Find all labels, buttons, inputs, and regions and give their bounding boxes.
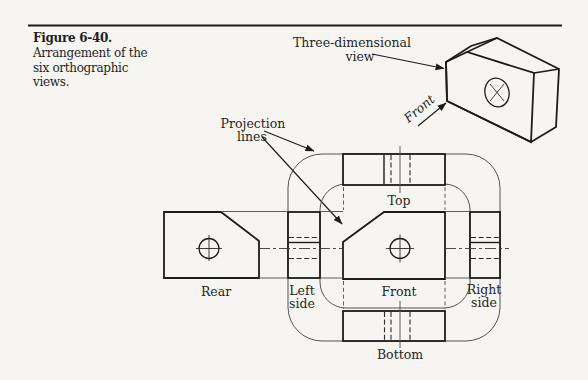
rear-view-label: Rear — [201, 284, 231, 299]
top-view-label: Top — [388, 193, 411, 208]
caption-line-2: six orthographic — [33, 61, 129, 75]
bottom-view — [343, 311, 445, 341]
caption-line-3: views. — [32, 75, 69, 89]
projection-label-line2: lines — [237, 129, 267, 144]
figure-6-40-diagram: Figure 6-40. Arrangement of the six orth… — [0, 0, 588, 380]
figure-caption: Figure 6-40. Arrangement of the six orth… — [32, 31, 148, 89]
orthographic-views: Top Front Rear Left side Right side Bott… — [164, 146, 509, 362]
caption-figure-number: Figure 6-40. — [33, 31, 112, 45]
front-pictorial-label: Front — [400, 91, 438, 126]
front-view-label: Front — [381, 284, 416, 299]
three-dimensional-arrow — [372, 54, 444, 69]
three-dimensional-label-line2: view — [344, 49, 374, 64]
top-view — [343, 154, 445, 185]
right-side-label-line2: side — [471, 295, 497, 310]
caption-line-1: Arrangement of the — [32, 46, 148, 60]
pictorial-3d-block — [446, 38, 559, 142]
three-dimensional-label-line1: Three-dimensional — [293, 35, 411, 50]
left-side-label-line2: side — [289, 296, 315, 311]
left-side-view — [288, 212, 320, 278]
projection-lines-callout: Projection lines — [221, 116, 342, 224]
projection-arrow-lower — [262, 137, 342, 224]
figure-page: Figure 6-40. Arrangement of the six orth… — [0, 0, 588, 380]
rear-view — [164, 212, 259, 278]
front-view — [343, 212, 445, 279]
front-pictorial-callout: Front — [400, 91, 446, 126]
three-dimensional-callout: Three-dimensional view — [293, 35, 444, 69]
bottom-view-label: Bottom — [377, 347, 423, 362]
right-side-view — [470, 212, 500, 278]
